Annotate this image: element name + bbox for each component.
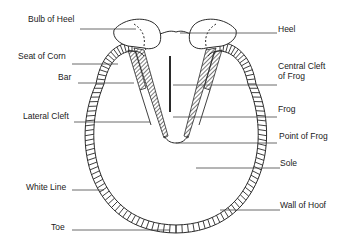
label-central-cleft-line1: Central Cleft xyxy=(278,61,325,71)
label-point-of-frog: Point of Frog xyxy=(279,131,328,141)
leader-lines xyxy=(72,29,280,230)
label-central-cleft-of-frog: Central Cleft of Frog xyxy=(278,61,325,81)
label-frog: Frog xyxy=(278,104,295,114)
heel-wall-arcs xyxy=(96,42,256,84)
bars xyxy=(128,48,222,138)
label-toe: Toe xyxy=(51,222,65,232)
label-heel: Heel xyxy=(278,24,295,34)
label-seat-of-corn: Seat of Corn xyxy=(18,51,66,61)
label-lateral-cleft: Lateral Cleft xyxy=(23,111,69,121)
wall-hatching xyxy=(85,42,267,233)
wall-inner xyxy=(94,84,258,225)
label-central-cleft-line2: of Frog xyxy=(278,71,325,81)
hoof-wall xyxy=(85,84,267,233)
label-bulb-of-heel: Bulb of Heel xyxy=(28,14,74,24)
label-bar: Bar xyxy=(58,72,71,82)
bulbs-of-heel xyxy=(114,19,237,49)
label-wall-of-hoof: Wall of Hoof xyxy=(280,200,326,210)
label-sole: Sole xyxy=(280,158,297,168)
wall-outer xyxy=(85,84,267,233)
frog xyxy=(164,56,188,143)
label-white-line: White Line xyxy=(26,182,66,192)
